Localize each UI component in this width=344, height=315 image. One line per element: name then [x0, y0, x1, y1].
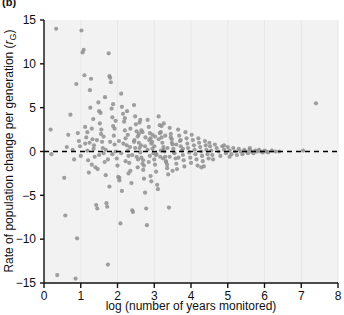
data-point [143, 135, 147, 139]
y-axis-ticks: −15−10−5051015 [16, 13, 44, 290]
data-point [49, 127, 53, 131]
data-point [143, 191, 147, 195]
data-point [112, 127, 116, 131]
data-point [55, 273, 59, 277]
data-point [211, 157, 215, 161]
data-point [193, 152, 197, 156]
data-point [107, 51, 111, 55]
x-axis-title: log (number of years monitored) [106, 299, 277, 313]
data-point [112, 142, 116, 146]
data-point [90, 163, 94, 167]
data-point [126, 154, 130, 158]
data-point [218, 154, 222, 158]
data-point [160, 141, 164, 145]
data-point [117, 176, 121, 180]
data-point [205, 152, 209, 156]
data-point [222, 143, 226, 147]
data-point [110, 106, 114, 110]
data-point [136, 157, 140, 161]
data-point [136, 165, 140, 169]
data-point [163, 134, 167, 138]
data-point [181, 153, 185, 157]
data-point [123, 116, 127, 120]
data-point [200, 154, 204, 158]
data-point [128, 145, 132, 149]
data-point [131, 210, 135, 214]
data-point [79, 28, 83, 32]
data-point [196, 163, 200, 167]
data-point [198, 145, 202, 149]
x-axis-tick-label: 0 [41, 289, 48, 303]
data-point [156, 187, 160, 191]
data-point [72, 157, 76, 161]
y-axis-tick-label: 10 [23, 57, 37, 71]
data-point [167, 206, 171, 210]
data-point [96, 167, 100, 171]
data-point [106, 157, 110, 161]
data-point [49, 152, 53, 156]
y-axis-tick-label: −10 [16, 232, 37, 246]
data-point [158, 131, 162, 135]
data-point [85, 149, 89, 153]
data-point [115, 156, 119, 160]
data-point [162, 121, 166, 125]
data-point [89, 77, 93, 81]
data-point [165, 146, 169, 150]
data-point [141, 158, 145, 162]
data-point [158, 155, 162, 159]
data-point [88, 106, 92, 110]
data-point [248, 146, 252, 150]
data-point [169, 135, 173, 139]
data-point [63, 213, 67, 217]
data-point [147, 138, 151, 142]
data-point [66, 133, 70, 137]
data-point [154, 153, 158, 157]
data-point [208, 144, 212, 148]
data-point [87, 141, 91, 145]
data-point [118, 221, 122, 225]
data-point [75, 236, 79, 240]
data-point [314, 101, 318, 105]
data-point [112, 134, 116, 138]
data-point [164, 159, 168, 163]
data-point [86, 158, 90, 162]
data-point [147, 160, 151, 164]
data-point [122, 120, 126, 124]
data-point [83, 142, 87, 146]
data-point [90, 127, 94, 131]
y-axis-tick-label: 0 [29, 145, 36, 159]
data-point [106, 262, 110, 266]
data-point [132, 140, 136, 144]
data-point [126, 133, 130, 137]
data-point [235, 153, 239, 157]
data-point [153, 163, 157, 167]
data-point [65, 145, 69, 149]
data-point [104, 201, 108, 205]
data-point [115, 163, 119, 167]
data-point [96, 100, 100, 104]
data-point [83, 125, 87, 129]
data-point [121, 112, 125, 116]
data-point [125, 109, 129, 113]
data-point [74, 277, 78, 281]
data-point [149, 179, 153, 183]
data-point [87, 170, 91, 174]
data-point [184, 136, 188, 140]
data-point [193, 148, 197, 152]
data-point [105, 205, 109, 209]
data-point [95, 206, 99, 210]
data-point [191, 138, 195, 142]
data-point [157, 137, 161, 141]
data-point [140, 130, 144, 134]
data-point [79, 154, 83, 158]
data-point [127, 161, 131, 165]
data-point [100, 140, 104, 144]
data-point [176, 156, 180, 160]
data-point [155, 183, 159, 187]
data-point [141, 168, 145, 172]
y-axis-title-close: ) [2, 29, 16, 33]
data-point [120, 105, 124, 109]
data-point [210, 153, 214, 157]
data-point [174, 142, 178, 146]
data-point [123, 159, 127, 163]
